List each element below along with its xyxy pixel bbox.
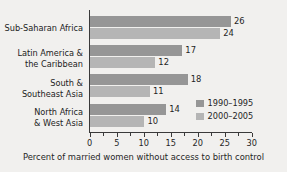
x-tick-label-5: 5 bbox=[114, 138, 119, 148]
legend-label-2000-2005: 2000–2005 bbox=[208, 112, 254, 121]
x-tick-20 bbox=[198, 133, 199, 137]
category-label-line2: the Caribbean bbox=[17, 59, 83, 70]
legend-item-2000-2005: 2000–2005 bbox=[196, 111, 253, 122]
legend-label-1990-1995: 1990–1995 bbox=[208, 99, 254, 108]
category-label-line2: Southeast Asia bbox=[22, 89, 83, 100]
x-tick-label-30: 30 bbox=[247, 138, 257, 148]
bar-value-south-southeast-asia-2000: 11 bbox=[153, 86, 164, 97]
category-label-north-africa-west-asia: North Africa & West Asia bbox=[34, 107, 83, 128]
category-label-line1: South & bbox=[50, 78, 83, 88]
category-label-south-southeast-asia: South & Southeast Asia bbox=[22, 78, 83, 99]
category-label-line1: Sub-Saharan Africa bbox=[5, 23, 84, 33]
bar-chart: Sub-Saharan Africa Latin America & the C… bbox=[0, 0, 287, 172]
legend-item-1990-1995: 1990–1995 bbox=[196, 98, 253, 109]
category-label-line1: Latin America & bbox=[17, 48, 83, 58]
bar-sub-saharan-africa-2000 bbox=[90, 28, 220, 39]
x-tick-0 bbox=[90, 133, 91, 137]
bar-value-latin-america-2000: 12 bbox=[158, 57, 169, 68]
x-tick-12-5 bbox=[157, 133, 158, 136]
x-tick-label-15: 15 bbox=[166, 138, 176, 148]
legend-swatch-icon-1990-1995 bbox=[196, 100, 204, 108]
category-label-line2: & West Asia bbox=[34, 118, 83, 129]
x-tick-5 bbox=[117, 133, 118, 137]
x-tick-15 bbox=[171, 133, 172, 137]
bar-value-sub-saharan-africa-1990: 26 bbox=[234, 16, 245, 27]
category-label-line1: North Africa bbox=[34, 107, 83, 117]
x-tick-2-5 bbox=[103, 133, 104, 136]
x-tick-22-5 bbox=[211, 133, 212, 136]
category-axis-labels: Sub-Saharan Africa Latin America & the C… bbox=[0, 10, 86, 132]
category-label-sub-saharan-africa: Sub-Saharan Africa bbox=[5, 23, 84, 34]
legend-swatch-icon-2000-2005 bbox=[196, 113, 204, 121]
x-tick-17-5 bbox=[184, 133, 185, 136]
bar-north-africa-west-asia-1990 bbox=[90, 104, 166, 115]
bar-latin-america-1990 bbox=[90, 45, 182, 56]
bar-value-north-africa-west-asia-2000: 10 bbox=[148, 116, 159, 127]
bar-south-southeast-asia-1990 bbox=[90, 74, 187, 85]
x-tick-label-0: 0 bbox=[87, 138, 92, 148]
legend: 1990–1995 2000–2005 bbox=[196, 98, 253, 124]
bar-value-sub-saharan-africa-2000: 24 bbox=[223, 28, 234, 39]
x-tick-label-20: 20 bbox=[193, 138, 203, 148]
x-axis-title: Percent of married women without access … bbox=[0, 152, 287, 163]
bar-north-africa-west-asia-2000 bbox=[90, 116, 144, 127]
bar-value-north-africa-west-asia-1990: 14 bbox=[169, 104, 180, 115]
x-tick-label-10: 10 bbox=[139, 138, 149, 148]
x-tick-label-25: 25 bbox=[220, 138, 230, 148]
bar-value-south-southeast-asia-1990: 18 bbox=[191, 74, 202, 85]
x-tick-30 bbox=[252, 133, 253, 137]
bar-latin-america-2000 bbox=[90, 57, 155, 68]
x-tick-10 bbox=[144, 133, 145, 137]
bar-south-southeast-asia-2000 bbox=[90, 86, 149, 97]
category-label-latin-america: Latin America & the Caribbean bbox=[17, 48, 83, 69]
bar-value-latin-america-1990: 17 bbox=[185, 45, 196, 56]
plot-area: 26 24 17 12 18 11 14 10 0 5 10 bbox=[89, 10, 287, 132]
x-tick-7-5 bbox=[130, 133, 131, 136]
bar-sub-saharan-africa-1990 bbox=[90, 16, 230, 27]
x-tick-27-5 bbox=[238, 133, 239, 136]
x-tick-25 bbox=[225, 133, 226, 137]
